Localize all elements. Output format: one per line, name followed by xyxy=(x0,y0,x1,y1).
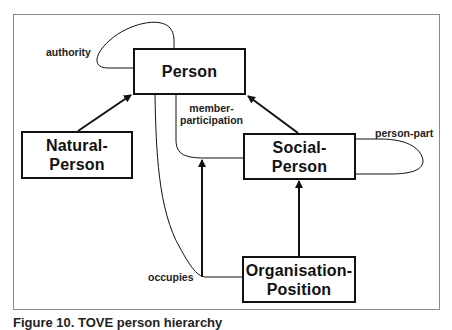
relation-label-occupies: occupies xyxy=(148,271,194,283)
entity-social-person: Social- Person xyxy=(243,133,356,180)
entity-natural-person-label: Natural- Person xyxy=(46,136,108,174)
entity-person: Person xyxy=(133,48,246,95)
person-part-loop xyxy=(356,139,423,174)
relation-label-person-part: person-part xyxy=(375,127,433,139)
relation-label-member-participation: member- participation xyxy=(180,102,243,126)
natural-person-isa-arrow xyxy=(78,95,131,131)
entity-person-label: Person xyxy=(162,62,217,81)
entity-natural-person: Natural- Person xyxy=(21,131,133,179)
entity-social-person-label: Social- Person xyxy=(272,138,327,176)
social-person-isa-arrow xyxy=(248,96,298,133)
entity-organisation-position: Organisation- Position xyxy=(242,256,356,303)
entity-organisation-position-label: Organisation- Position xyxy=(246,261,353,299)
relation-label-authority: authority xyxy=(46,46,91,58)
figure-caption: Figure 10. TOVE person hierarchy xyxy=(13,315,222,330)
